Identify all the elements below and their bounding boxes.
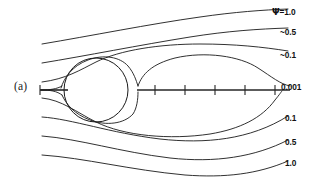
- contour-label-lower-0-5: 0.5: [285, 137, 296, 147]
- psi-head-value: =1.0: [280, 7, 296, 17]
- psi-symbol: Ψ: [272, 7, 280, 17]
- sphere-body: [64, 58, 128, 122]
- sphere-circle: [64, 58, 128, 122]
- streamline-wake-lower-branch: [62, 92, 138, 123]
- panel-label: (a): [14, 80, 27, 92]
- streamline-plot: [0, 0, 317, 177]
- contour-label-psi-1-0: Ψ=1.0: [272, 7, 296, 17]
- contour-label-lower-1-0: 1.0: [285, 158, 296, 168]
- contour-label-axis-0-001: 0.001: [281, 82, 301, 92]
- lower-streamlines: [42, 91, 288, 176]
- contour-label-lower-0-1: 0.1: [285, 113, 296, 123]
- contour-label-upper-0-1: ~0.1: [280, 50, 296, 60]
- streamline-psi-1-0-lower: [42, 155, 288, 176]
- streamline-psi-1-0-upper: [42, 9, 288, 44]
- upper-streamlines: [42, 9, 290, 88]
- streamline-psi-0-001-upper: [138, 55, 290, 86]
- contour-label-upper-0-5: ~0.5: [280, 27, 296, 37]
- streamline-psi-0-1-lower-outer: [42, 116, 288, 141]
- axis-group: [40, 85, 290, 95]
- streamline-figure: (a) Ψ=1.0 ~0.5 ~0.1 0.001 0.1 0.5 1.0: [0, 0, 317, 177]
- streamline-wake-upper-branch: [61, 57, 138, 88]
